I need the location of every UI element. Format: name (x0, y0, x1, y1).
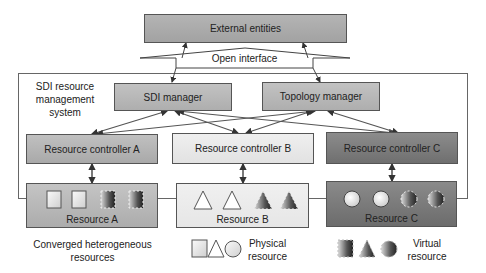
resource-c-label: Resource C (327, 213, 456, 224)
virtual-triangle-legend-icon (359, 240, 375, 257)
physical-triangle-legend-icon (208, 240, 224, 257)
physical-circle-icon (344, 191, 360, 207)
sdi-manager-label: SDI manager (144, 92, 203, 103)
resource-a-box: Resource A (26, 183, 158, 228)
virtual-caption: Virtual resource (402, 237, 452, 263)
resource-a-label: Resource A (27, 214, 157, 225)
external-entities-label: External entities (210, 23, 281, 34)
resource-controller-a-box: Resource controller A (26, 134, 158, 164)
resource-controller-b-label: Resource controller B (195, 143, 291, 154)
resource-controller-a-label: Resource controller A (44, 144, 140, 155)
virtual-circle-legend-icon (381, 241, 397, 257)
converged-caption: Converged heterogeneous resources (20, 238, 165, 264)
resource-controller-b-box: Resource controller B (172, 133, 314, 164)
resource-controller-c-label: Resource controller C (344, 143, 441, 154)
resource-controller-c-box: Resource controller C (326, 132, 458, 164)
virtual-circle-icon (401, 191, 417, 207)
physical-square-legend-icon (192, 240, 207, 257)
physical-square-icon (47, 191, 61, 208)
physical-circle-icon (373, 191, 389, 207)
open-interface-label: Open interface (176, 53, 313, 64)
resource-b-label: Resource B (177, 214, 308, 225)
topology-manager-box: Topology manager (262, 82, 380, 111)
virtual-legend-icons (334, 238, 400, 260)
resource-c-box: Resource C (326, 181, 457, 227)
virtual-square-legend-icon (338, 240, 353, 257)
physical-caption: Physical resource (245, 237, 290, 263)
physical-legend-icons (190, 238, 242, 260)
topology-manager-label: Topology manager (280, 91, 362, 102)
virtual-circle-icon (428, 191, 444, 207)
virtual-triangle-icon (280, 191, 298, 209)
sdi-manager-box: SDI manager (114, 83, 232, 111)
physical-circle-legend-icon (225, 241, 241, 257)
virtual-square-icon (129, 191, 143, 208)
resource-b-box: Resource B (176, 183, 309, 228)
virtual-triangle-icon (254, 191, 272, 209)
physical-triangle-icon (223, 191, 241, 209)
physical-square-icon (72, 191, 86, 208)
external-entities-box: External entities (144, 14, 347, 43)
physical-triangle-icon (194, 191, 212, 209)
virtual-square-icon (101, 191, 115, 208)
